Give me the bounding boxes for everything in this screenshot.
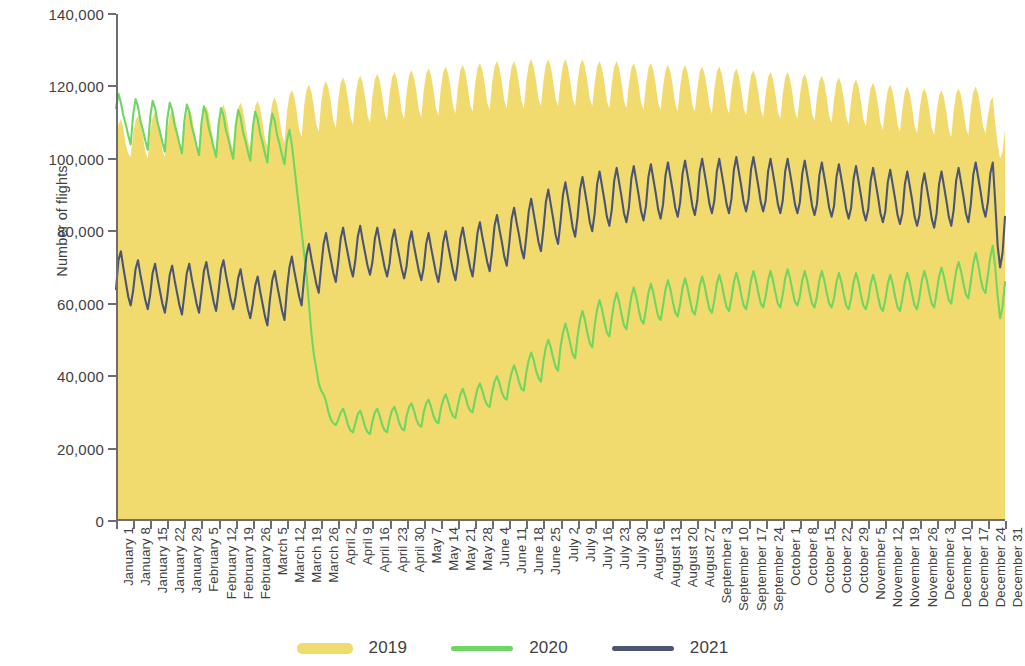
legend-label: 2019	[369, 638, 408, 658]
x-axis-tick-label: October 15	[822, 527, 837, 593]
x-axis-tick-label: April 23	[395, 527, 410, 573]
y-axis-tick-label: 80,000	[57, 223, 104, 240]
x-axis-tick-label: August 20	[685, 527, 700, 587]
x-axis-tick-label: September 10	[736, 527, 751, 611]
y-axis-tick-label: 20,000	[57, 440, 104, 457]
y-axis-line	[116, 14, 118, 521]
chart-figure: Number of flights 020,00040,00060,00080,…	[0, 0, 1025, 666]
y-axis-tick-label: 0	[95, 513, 104, 530]
y-axis-tick	[108, 85, 116, 87]
x-axis-tick-label: June 4	[497, 527, 512, 567]
x-axis-tick-label: May 28	[480, 527, 495, 571]
y-axis-tick	[108, 448, 116, 450]
series-svg	[116, 14, 1005, 521]
x-axis-tick-label: January 22	[172, 527, 187, 593]
x-axis-tick-label: June 11	[514, 527, 529, 574]
x-axis-tick-label: December 31	[1010, 527, 1025, 607]
series-area-2019	[116, 59, 1005, 521]
x-axis-tick-label: March 12	[292, 527, 307, 583]
x-axis-tick-label: January 8	[138, 527, 153, 586]
legend-swatch-icon	[612, 646, 674, 651]
legend-label: 2020	[529, 638, 568, 658]
y-axis-tick-label: 120,000	[48, 78, 104, 95]
y-axis-tick-label: 60,000	[57, 295, 104, 312]
x-axis-tick-label: June 25	[548, 527, 563, 575]
x-axis-tick-label: December 3	[942, 527, 957, 600]
x-axis-tick-label: February 26	[258, 527, 273, 599]
x-axis-tick-label: January 15	[155, 527, 170, 593]
y-axis-tick-label: 100,000	[48, 150, 104, 167]
x-axis-tick-label: October 22	[839, 527, 854, 593]
legend-swatch-icon	[451, 646, 513, 651]
x-axis-tick-label: September 24	[771, 527, 786, 611]
x-axis-tick-label: November 12	[890, 527, 905, 607]
x-axis-tick-label: March 19	[309, 527, 324, 583]
x-axis-tick-label: April 30	[412, 527, 427, 573]
x-axis-tick-label: July 16	[600, 527, 615, 569]
x-axis-tick-label: November 19	[907, 527, 922, 607]
y-axis-tick-label: 40,000	[57, 368, 104, 385]
x-axis-tick-label: March 5	[275, 527, 290, 575]
legend-item-2021[interactable]: 2021	[612, 638, 729, 658]
legend-item-2020[interactable]: 2020	[451, 638, 568, 658]
x-axis-tick-label: September 17	[754, 527, 769, 611]
x-axis-tick-label: September 3	[719, 527, 734, 604]
x-axis-tick-label: October 29	[856, 527, 871, 593]
y-axis-tick	[108, 13, 116, 15]
legend-item-2019[interactable]: 2019	[297, 638, 408, 658]
x-axis-tick-label: July 9	[583, 527, 598, 562]
y-axis-tick	[108, 230, 116, 232]
x-axis-tick-label: August 6	[651, 527, 666, 580]
x-axis-tick-label: August 13	[668, 527, 683, 587]
x-axis-tick-label: December 24	[993, 527, 1008, 607]
x-axis-tick-label: April 16	[377, 527, 392, 573]
x-axis-tick-label: January 1	[121, 527, 136, 586]
x-axis-tick-label: June 18	[531, 527, 546, 575]
x-axis-tick-label: February 19	[241, 527, 256, 599]
legend-label: 2021	[690, 638, 729, 658]
legend-swatch-icon	[297, 643, 353, 654]
x-axis-tick-label: October 1	[788, 527, 803, 586]
x-axis-tick	[116, 521, 118, 529]
x-axis-tick-label: May 21	[463, 527, 478, 571]
y-axis-tick	[108, 520, 116, 522]
x-axis-tick-label: July 2	[566, 527, 581, 562]
x-axis-tick-label: April 9	[360, 527, 375, 565]
x-axis-tick-label: December 10	[959, 527, 974, 607]
chart-canvas	[116, 14, 1005, 521]
x-axis-tick-label: November 26	[925, 527, 940, 607]
y-axis-tick	[108, 303, 116, 305]
x-axis-tick-label: February 12	[224, 527, 239, 599]
x-axis-tick-label: May 7	[429, 527, 444, 563]
x-axis-tick-label: July 23	[617, 527, 632, 569]
x-axis-tick-label: November 5	[873, 527, 888, 600]
y-axis-tick-labels: 020,00040,00060,00080,000100,000120,0001…	[30, 0, 104, 666]
x-axis-tick-label: May 14	[446, 527, 461, 571]
plot-area	[116, 14, 1005, 521]
x-axis-tick-label: December 17	[976, 527, 991, 607]
y-axis-tick-label: 140,000	[48, 6, 104, 23]
x-axis-tick-label: October 8	[805, 527, 820, 586]
x-axis-tick-label: July 30	[634, 527, 649, 569]
x-axis-tick-label: February 5	[206, 527, 221, 592]
x-axis-tick-label: April 2	[343, 527, 358, 565]
x-axis-tick-label: January 29	[189, 527, 204, 593]
y-axis-tick	[108, 375, 116, 377]
y-axis-tick	[108, 158, 116, 160]
chart-legend: 201920202021	[0, 638, 1025, 658]
x-axis-tick-label: March 26	[326, 527, 341, 583]
x-axis-tick-label: August 27	[702, 527, 717, 587]
